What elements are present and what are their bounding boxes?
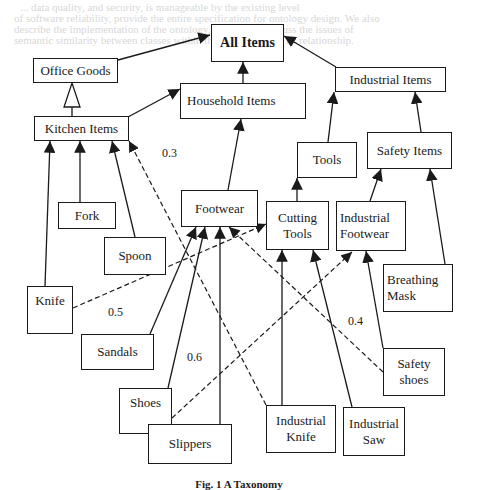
node-label: Industrial (349, 416, 399, 432)
node-label: Spoon (118, 248, 151, 264)
node-label: Breathing (387, 272, 438, 288)
edge-weight-label: 0.3 (162, 146, 177, 161)
node-label: Mask (387, 288, 416, 304)
node-label: Footwear (340, 226, 389, 242)
edge-safetyshoes-to-indfootwear (366, 251, 383, 348)
edge-tools-to-industrial (328, 92, 334, 142)
node-footwear[interactable]: Footwear (181, 190, 258, 227)
edge-office-to-all (118, 35, 210, 60)
node-label: Tools (283, 226, 312, 242)
node-industrial-footwear[interactable]: IndustrialFootwear (336, 201, 406, 251)
node-label: Industrial (276, 413, 326, 429)
node-safety-shoes[interactable]: Safetyshoes (383, 348, 445, 396)
node-all-items[interactable]: All Items (211, 24, 284, 62)
edge-indsaw-to-cutting (313, 250, 352, 407)
node-label: All Items (220, 35, 275, 51)
edge-industrial-to-all (284, 36, 336, 67)
node-label: Safety (397, 356, 430, 372)
node-label: Fork (75, 208, 100, 224)
node-label: Tools (313, 152, 342, 168)
node-label: Slippers (169, 436, 212, 452)
edge-indfootwear-to-safety (370, 169, 381, 201)
node-kitchen-items[interactable]: Kitchen Items (34, 116, 129, 141)
edge-weight-label: 0.4 (348, 314, 363, 329)
node-spoon[interactable]: Spoon (104, 237, 166, 275)
node-label: Knife (286, 429, 316, 445)
node-household-items[interactable]: Household Items (180, 83, 306, 119)
node-label: Knife (35, 293, 65, 309)
node-label: Safety Items (377, 143, 442, 159)
edge-kitchen-to-household (128, 89, 180, 117)
node-label: Household Items (187, 93, 275, 109)
node-label: Saw (363, 432, 385, 448)
node-label: Sandals (97, 344, 137, 360)
edge-weight-label: 0.5 (108, 305, 123, 320)
node-sandals[interactable]: Sandals (81, 334, 154, 370)
node-breathing-mask[interactable]: BreathingMask (383, 264, 453, 312)
dashed-edge-knife-to-cutting (73, 224, 266, 308)
node-label: Industrial Items (350, 72, 432, 88)
node-label: Kitchen Items (45, 121, 118, 137)
node-fork[interactable]: Fork (58, 202, 116, 229)
node-label: Shoes (130, 395, 161, 411)
node-industrial-knife[interactable]: IndustrialKnife (266, 405, 336, 453)
node-cutting-tools[interactable]: CuttingTools (266, 201, 329, 250)
figure-caption: Fig. 1 A Taxonomy (0, 478, 478, 490)
node-label: shoes (400, 372, 429, 388)
edge-safety-to-industrial (415, 92, 421, 132)
generalization-triangle-icon (64, 83, 80, 107)
edge-footwear-to-household (228, 119, 241, 190)
node-label: Industrial (340, 210, 390, 226)
node-industrial-items[interactable]: Industrial Items (335, 67, 446, 92)
edge-knife-to-kitchen (45, 141, 50, 286)
edge-weight-label: 0.6 (187, 350, 202, 365)
node-label: Office Goods (40, 63, 110, 79)
node-label: Footwear (195, 201, 244, 217)
node-slippers[interactable]: Slippers (148, 424, 232, 464)
node-tools[interactable]: Tools (297, 142, 357, 178)
node-knife[interactable]: Knife (27, 286, 73, 334)
node-industrial-saw[interactable]: IndustrialSaw (343, 407, 405, 456)
node-safety-items[interactable]: Safety Items (367, 132, 452, 169)
node-office-goods[interactable]: Office Goods (33, 58, 118, 83)
node-label: Cutting (278, 210, 317, 226)
edge-breathing-to-safety (430, 169, 445, 264)
